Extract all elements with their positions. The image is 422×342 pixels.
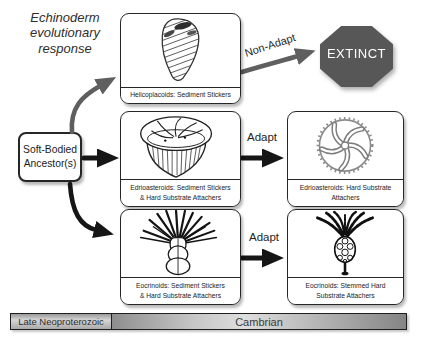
adapt-label-lower: Adapt bbox=[249, 231, 279, 243]
helicoplacoid-spiral-fossil-icon bbox=[121, 14, 240, 87]
caption-eocrinoids-stemmed: Eocrinoids: Stemmed Hard Substrate Attac… bbox=[288, 277, 403, 304]
extinct-label: EXTINCT bbox=[327, 46, 386, 61]
caption-edrioasteroids-hard: Edrioasteroids: Hard Substrate Attachers bbox=[288, 179, 403, 206]
caption-edrioasteroids-hard-line1: Edrioasteroids: Hard Substrate bbox=[300, 183, 391, 193]
arrow-to-helicoplacoids bbox=[72, 86, 100, 132]
panel-edrioasteroids-hard: Edrioasteroids: Hard Substrate Attachers bbox=[287, 111, 404, 207]
timeline-label-neoproterozoic: Late Neoproterozoic bbox=[18, 316, 104, 327]
timeline-segment-neoproterozoic: Late Neoproterozoic bbox=[11, 314, 112, 329]
echinoderm-evolution-diagram: Echinoderm evolutionary response Soft-Bo… bbox=[0, 0, 422, 342]
panel-helicoplacoids: Helicoplacoids: Sediment Stickers bbox=[120, 13, 241, 104]
extinct-stop-sign: EXTINCT bbox=[320, 26, 393, 87]
ancestor-label-line1: Soft-Bodied bbox=[23, 143, 77, 157]
panel-eocrinoids-sediment: Eocrinoids: Sediment Stickers & Hard Sub… bbox=[120, 209, 241, 305]
caption-edrioasteroids-hard-line2: Attachers bbox=[331, 193, 359, 203]
eocrinoid-stemmed-fossil-icon bbox=[288, 210, 403, 277]
caption-eocrinoids-stemmed-line1: Eocrinoids: Stemmed Hard bbox=[306, 281, 386, 291]
edrioasteroid-star-disc-fossil-icon bbox=[288, 112, 403, 179]
eocrinoid-spiny-fossil-icon bbox=[121, 210, 240, 277]
timeline-segment-cambrian: Cambrian bbox=[112, 314, 406, 329]
arrow-to-eocrinoids bbox=[70, 184, 96, 230]
timeline-label-cambrian: Cambrian bbox=[235, 316, 283, 328]
non-adapt-arrow bbox=[242, 56, 298, 72]
ancestor-box: Soft-Bodied Ancestor(s) bbox=[18, 132, 82, 182]
caption-helicoplacoids: Helicoplacoids: Sediment Stickers bbox=[121, 87, 240, 103]
edrioasteroid-dome-fossil-icon bbox=[121, 112, 240, 179]
caption-edrioasteroids-sediment: Edrioasteroids: Sediment Stickers & Hard… bbox=[121, 179, 240, 206]
figure-title-line3: response bbox=[12, 41, 118, 56]
figure-title-line2: evolutionary bbox=[12, 25, 118, 40]
caption-eocrinoids-sediment: Eocrinoids: Sediment Stickers & Hard Sub… bbox=[121, 277, 240, 304]
figure-title: Echinoderm evolutionary response bbox=[12, 10, 118, 56]
caption-edrioasteroids-sediment-line1: Edrioasteroids: Sediment Stickers bbox=[130, 183, 230, 193]
caption-eocrinoids-sediment-line2: & Hard Substrate Attachers bbox=[140, 291, 221, 301]
panel-edrioasteroids-sediment: Edrioasteroids: Sediment Stickers & Hard… bbox=[120, 111, 241, 207]
panel-eocrinoids-stemmed: Eocrinoids: Stemmed Hard Substrate Attac… bbox=[287, 209, 404, 305]
caption-edrioasteroids-sediment-line2: & Hard Substrate Attachers bbox=[140, 193, 221, 203]
figure-title-line1: Echinoderm bbox=[12, 10, 118, 25]
caption-eocrinoids-stemmed-line2: Substrate Attachers bbox=[316, 291, 374, 301]
timeline-bar: Late Neoproterozoic Cambrian bbox=[10, 313, 407, 330]
non-adapt-label: Non-Adapt bbox=[239, 30, 302, 61]
ancestor-label-line2: Ancestor(s) bbox=[24, 157, 77, 171]
extinct-sign-wrap: EXTINCT bbox=[320, 26, 393, 87]
caption-helicoplacoids-text: Helicoplacoids: Sediment Stickers bbox=[130, 90, 231, 100]
adapt-label-upper: Adapt bbox=[247, 131, 277, 143]
caption-eocrinoids-sediment-line1: Eocrinoids: Sediment Stickers bbox=[136, 281, 225, 291]
